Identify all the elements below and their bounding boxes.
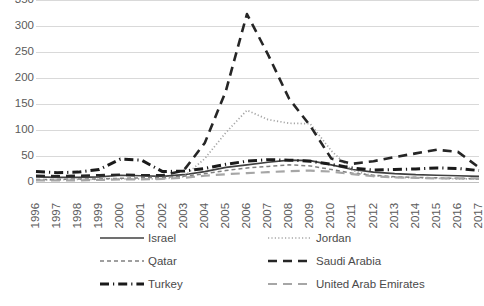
x-axis-tick-label: 1996 bbox=[30, 202, 42, 228]
legend-line-swatch bbox=[100, 255, 144, 267]
x-axis-tick-label: 2012 bbox=[367, 202, 379, 228]
y-axis-tick-label: 300 bbox=[15, 20, 34, 32]
x-axis-tick-label: 2006 bbox=[240, 202, 252, 228]
legend-line-swatch bbox=[268, 255, 312, 267]
legend-label: Jordan bbox=[316, 232, 351, 244]
legend-line-swatch bbox=[100, 232, 144, 244]
x-axis-tick-label: 2008 bbox=[283, 202, 295, 228]
legend-item-qatar[interactable]: Qatar bbox=[100, 255, 177, 267]
legend-label: Israel bbox=[148, 232, 176, 244]
x-axis: 1996199719981999200020012002200320042005… bbox=[36, 184, 479, 228]
x-axis-tick-label: 1997 bbox=[51, 202, 63, 228]
x-axis-tick-label: 2007 bbox=[262, 202, 274, 228]
series-line-saudi-arabia bbox=[36, 14, 479, 176]
x-axis-tick-label: 2011 bbox=[346, 203, 358, 228]
legend-item-israel[interactable]: Israel bbox=[100, 232, 176, 244]
x-axis-tick-label: 2000 bbox=[114, 202, 126, 228]
legend-item-saudi-arabia[interactable]: Saudi Arabia bbox=[268, 255, 381, 267]
y-axis-tick-label: 200 bbox=[15, 72, 34, 84]
plot-area: 050100150200250300350 199619971998199920… bbox=[0, 0, 481, 228]
legend-item-turkey[interactable]: Turkey bbox=[100, 278, 183, 290]
y-axis-tick-label: 100 bbox=[15, 124, 34, 136]
y-axis-tick-label: 150 bbox=[15, 98, 34, 110]
chart-legend: IsraelJordanQatarSaudi ArabiaTurkeyUnite… bbox=[0, 230, 481, 304]
legend-label: Turkey bbox=[148, 278, 183, 290]
legend-item-jordan[interactable]: Jordan bbox=[268, 232, 351, 244]
y-axis-tick-label: 350 bbox=[15, 0, 34, 6]
y-axis-tick-label: 50 bbox=[21, 150, 34, 162]
x-axis-tick-label: 2003 bbox=[177, 202, 189, 228]
gridline bbox=[36, 182, 479, 183]
legend-line-swatch bbox=[268, 278, 312, 290]
x-axis-tick-label: 2013 bbox=[388, 202, 400, 228]
y-axis-tick-label: 250 bbox=[15, 46, 34, 58]
legend-line-swatch bbox=[100, 278, 144, 290]
x-axis-tick-label: 2014 bbox=[409, 202, 421, 228]
x-axis-tick-label: 2015 bbox=[430, 202, 442, 228]
y-axis: 050100150200250300350 bbox=[0, 0, 34, 190]
x-axis-tick-label: 2002 bbox=[156, 202, 168, 228]
legend-item-united-arab-emirates[interactable]: United Arab Emirates bbox=[268, 278, 425, 290]
series-line-turkey bbox=[36, 159, 479, 173]
x-axis-tick-label: 2016 bbox=[451, 202, 463, 228]
legend-line-swatch bbox=[268, 232, 312, 244]
x-axis-tick-label: 2005 bbox=[219, 202, 231, 228]
plot-canvas bbox=[36, 0, 479, 182]
series-lines bbox=[36, 0, 479, 182]
y-axis-tick-label: 0 bbox=[28, 176, 34, 188]
x-axis-tick-label: 1998 bbox=[72, 202, 84, 228]
x-axis-tick-label: 1999 bbox=[93, 202, 105, 228]
x-axis-tick-label: 2004 bbox=[198, 202, 210, 228]
x-axis-tick-label: 2010 bbox=[325, 202, 337, 228]
x-axis-tick-label: 2009 bbox=[304, 202, 316, 228]
legend-label: Qatar bbox=[148, 255, 177, 267]
x-axis-tick-label: 2001 bbox=[135, 202, 147, 228]
legend-label: United Arab Emirates bbox=[316, 278, 425, 290]
x-axis-tick-label: 2017 bbox=[473, 202, 484, 228]
legend-label: Saudi Arabia bbox=[316, 255, 381, 267]
